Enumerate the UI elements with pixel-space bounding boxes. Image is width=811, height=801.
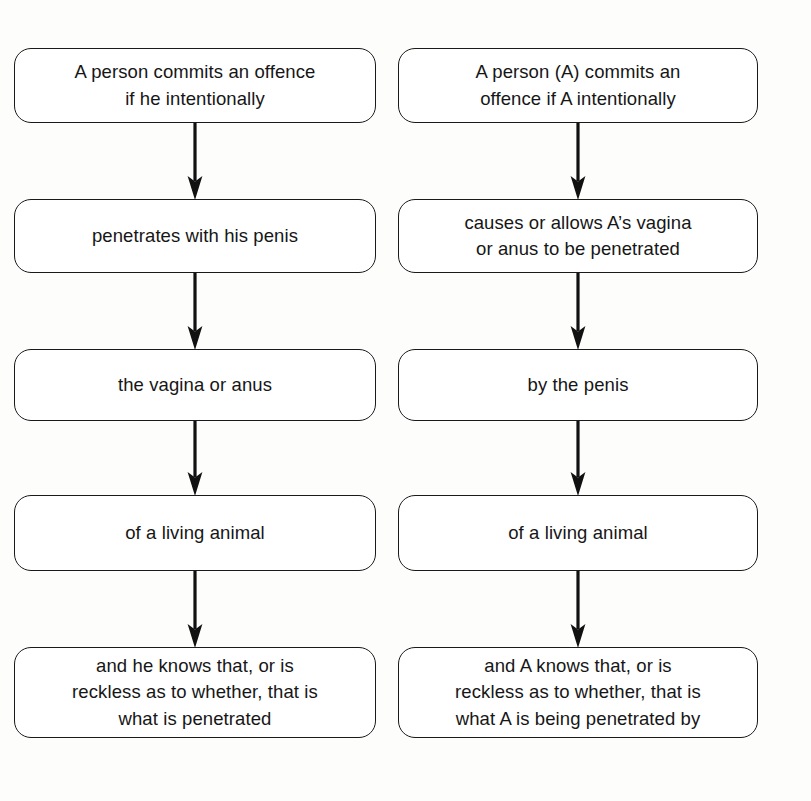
flow-node-right-1-text: A person (A) commits anoffence if A inte…	[413, 59, 743, 112]
arrow-left-4-to-5	[183, 571, 207, 648]
flowchart-column-right: A person (A) commits anoffence if A inte…	[398, 0, 758, 801]
arrow-right-1-to-2	[566, 123, 590, 200]
flow-node-left-1[interactable]: A person commits an offenceif he intenti…	[14, 48, 376, 123]
flow-node-right-4[interactable]: of a living animal	[398, 495, 758, 571]
flow-node-left-3-text: the vagina or anus	[29, 372, 361, 398]
flow-node-right-2[interactable]: causes or allows A’s vaginaor anus to be…	[398, 199, 758, 273]
flowchart-canvas: A person commits an offenceif he intenti…	[0, 0, 811, 801]
flow-node-right-4-text: of a living animal	[413, 520, 743, 546]
flow-node-left-4-text: of a living animal	[29, 520, 361, 546]
arrow-right-4-to-5	[566, 571, 590, 648]
arrow-right-3-to-4	[566, 421, 590, 496]
flow-node-right-5[interactable]: and A knows that, or isreckless as to wh…	[398, 647, 758, 738]
arrow-left-1-to-2	[183, 123, 207, 200]
flow-node-right-3[interactable]: by the penis	[398, 349, 758, 421]
flow-node-left-2-text: penetrates with his penis	[29, 223, 361, 249]
flow-node-left-2[interactable]: penetrates with his penis	[14, 199, 376, 273]
flow-node-left-5[interactable]: and he knows that, or isreckless as to w…	[14, 647, 376, 738]
flowchart-column-left: A person commits an offenceif he intenti…	[14, 0, 376, 801]
arrow-left-2-to-3	[183, 273, 207, 350]
arrow-right-2-to-3	[566, 273, 590, 350]
flow-node-left-3[interactable]: the vagina or anus	[14, 349, 376, 421]
flow-node-right-5-text: and A knows that, or isreckless as to wh…	[413, 653, 743, 732]
flow-node-right-1[interactable]: A person (A) commits anoffence if A inte…	[398, 48, 758, 123]
flow-node-left-4[interactable]: of a living animal	[14, 495, 376, 571]
flow-node-right-2-text: causes or allows A’s vaginaor anus to be…	[413, 210, 743, 263]
flow-node-right-3-text: by the penis	[413, 372, 743, 398]
arrow-left-3-to-4	[183, 421, 207, 496]
flow-node-left-5-text: and he knows that, or isreckless as to w…	[29, 653, 361, 732]
flow-node-left-1-text: A person commits an offenceif he intenti…	[29, 59, 361, 112]
